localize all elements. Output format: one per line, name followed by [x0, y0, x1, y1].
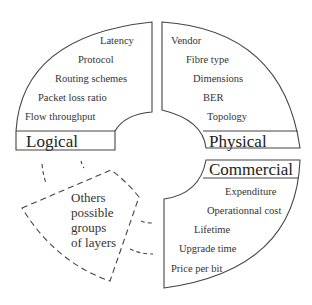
logical-title: Logical	[26, 133, 78, 150]
others-line-4: of layers	[71, 235, 116, 250]
physical-item-dimensions: Dimensions	[193, 74, 243, 85]
physical-item-fibre-type: Fibre type	[186, 55, 229, 66]
logical-item-flow-throughput: Flow throughput	[25, 112, 95, 123]
physical-item-ber: BER	[203, 93, 223, 104]
others-line-3: groups	[71, 220, 116, 235]
dashed-arc-right-lower	[130, 249, 153, 254]
logical-item-latency: Latency	[100, 36, 134, 47]
others-label: Others possible groups of layers	[71, 190, 116, 250]
commercial-item-price-per-bit: Price per bit	[171, 264, 222, 275]
physical-item-vendor: Vendor	[171, 36, 201, 47]
logical-item-packet-loss-ratio: Packet loss ratio	[38, 93, 107, 104]
commercial-title: Commercial	[209, 161, 293, 178]
others-line-1: Others	[71, 190, 116, 205]
commercial-item-upgrade-time: Upgrade time	[179, 244, 236, 255]
commercial-item-operationnal-cost: Operationnal cost	[207, 206, 281, 217]
logical-item-protocol: Protocol	[78, 55, 114, 66]
dashed-arc-inner	[81, 161, 84, 168]
layer-diagram	[0, 0, 312, 305]
dashed-arc-right-upper	[141, 221, 152, 223]
physical-item-topology: Topology	[207, 112, 247, 123]
dashed-arc-left	[42, 164, 46, 183]
commercial-item-lifetime: Lifetime	[194, 225, 230, 236]
others-line-2: possible	[71, 205, 116, 220]
logical-item-routing-schemes: Routing schemes	[55, 74, 127, 85]
physical-title: Physical	[209, 133, 267, 150]
commercial-item-expenditure: Expenditure	[225, 187, 276, 198]
